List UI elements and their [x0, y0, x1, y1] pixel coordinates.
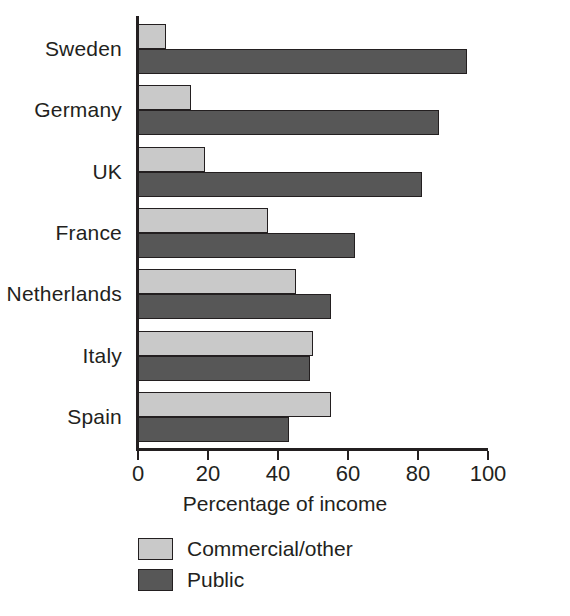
category-label-spain: Spain [67, 405, 122, 429]
bar-commercial-italy [138, 331, 313, 356]
category-label-netherlands: Netherlands [7, 282, 122, 306]
x-tick-label-20: 20 [196, 461, 220, 487]
category-label-france: France [55, 221, 122, 245]
bar-commercial-sweden [138, 24, 166, 49]
category-label-germany: Germany [34, 98, 122, 122]
legend-item-public: Public [138, 564, 478, 595]
x-tick-60 [347, 451, 349, 460]
x-axis-line [136, 448, 488, 451]
category-label-uk: UK [92, 160, 122, 184]
x-tick-20 [207, 451, 209, 460]
bar-commercial-uk [138, 147, 205, 172]
x-tick-0 [137, 451, 139, 460]
x-tick-40 [277, 451, 279, 460]
bar-public-sweden [138, 49, 467, 74]
legend-label: Commercial/other [187, 537, 353, 561]
bar-public-germany [138, 110, 439, 135]
bar-public-spain [138, 417, 289, 442]
x-tick-label-60: 60 [336, 461, 360, 487]
x-tick-label-80: 80 [406, 461, 430, 487]
bar-commercial-germany [138, 85, 191, 110]
bars-container [138, 18, 488, 448]
chart-legend: Commercial/otherPublic [138, 533, 478, 595]
plot-area: SwedenGermanyUKFranceNetherlandsItalySpa… [0, 0, 570, 470]
x-tick-80 [417, 451, 419, 460]
category-label-italy: Italy [82, 344, 122, 368]
x-axis-title: Percentage of income [0, 492, 570, 516]
legend-swatch-dark [138, 569, 173, 591]
legend-item-commercial: Commercial/other [138, 533, 478, 564]
category-label-sweden: Sweden [45, 37, 122, 61]
bar-public-uk [138, 172, 422, 197]
x-tick-label-100: 100 [470, 461, 507, 487]
x-tick-label-40: 40 [266, 461, 290, 487]
x-tick-label-0: 0 [132, 461, 144, 487]
bar-commercial-france [138, 208, 268, 233]
bar-public-italy [138, 356, 310, 381]
bar-public-netherlands [138, 294, 331, 319]
category-axis-labels: SwedenGermanyUKFranceNetherlandsItalySpa… [0, 18, 130, 448]
bar-chart: SwedenGermanyUKFranceNetherlandsItalySpa… [0, 0, 570, 616]
x-tick-100 [487, 451, 489, 460]
bar-public-france [138, 233, 355, 258]
legend-label: Public [187, 568, 244, 592]
bar-commercial-spain [138, 392, 331, 417]
legend-swatch-light [138, 538, 173, 560]
bar-commercial-netherlands [138, 269, 296, 294]
